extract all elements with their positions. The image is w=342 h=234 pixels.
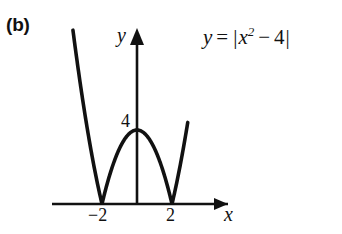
y-axis-arrowhead <box>130 28 144 45</box>
y-axis-label: y <box>117 24 126 47</box>
x-tick-label-neg2: −2 <box>88 205 107 226</box>
y-tick-label-four: 4 <box>121 111 130 132</box>
plot-canvas <box>0 0 342 234</box>
x-axis-label: x <box>224 203 233 226</box>
function-curve <box>73 30 188 204</box>
x-tick-label-pos2: 2 <box>166 205 175 226</box>
